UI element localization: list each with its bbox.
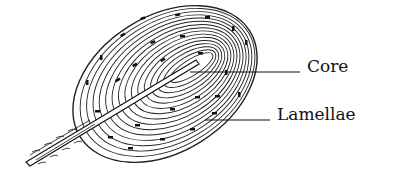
corpuscle-diagram (0, 0, 394, 175)
lamellae-label: Lamellae (277, 106, 356, 123)
lamellae-rings (44, 0, 286, 175)
core-label: Core (307, 58, 348, 75)
